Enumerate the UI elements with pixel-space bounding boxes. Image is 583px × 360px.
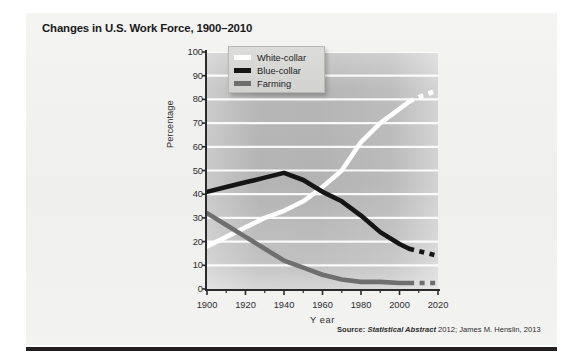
source-note: Source: Statistical Abstract 2012; James…: [337, 325, 541, 334]
legend-entry: Blue-collar: [229, 64, 324, 77]
legend-swatch-icon: [234, 81, 251, 86]
legend-label: Farming: [257, 79, 291, 89]
source-note-publication: Statistical Abstract: [367, 325, 436, 334]
legend-swatch-icon: [234, 55, 251, 60]
legend-label: White-collar: [257, 53, 306, 63]
legend-swatch-icon: [234, 68, 251, 73]
source-note-label: Source:: [337, 325, 365, 334]
source-note-rest: 2012; James M. Henslin, 2013: [438, 325, 541, 334]
chart-legend: White-collarBlue-collarFarming: [228, 46, 325, 93]
bottom-rule: [26, 347, 557, 351]
legend-entry: White-collar: [229, 51, 324, 64]
legend-label: Blue-collar: [257, 66, 301, 76]
legend-entry: Farming: [229, 77, 324, 90]
